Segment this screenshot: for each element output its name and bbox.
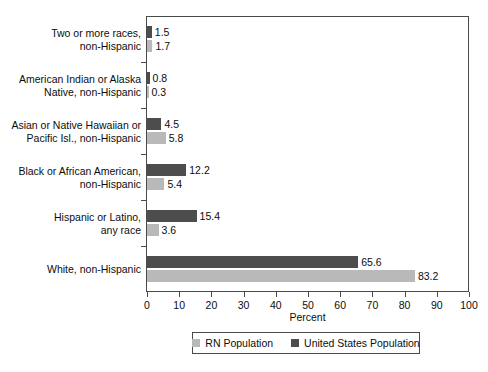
category-row: White, non-Hispanic65.683.2	[146, 246, 469, 292]
bar-group: 15.43.6	[147, 200, 469, 246]
bar-chart: Two or more races, non-Hispanic1.51.7Ame…	[0, 0, 488, 372]
y-axis-tick	[141, 200, 146, 201]
legend-label-rn-population: RN Population	[205, 338, 273, 349]
y-axis-tick	[141, 154, 146, 155]
bar-value-label: 4.5	[164, 119, 179, 130]
category-label: White, non-Hispanic	[0, 263, 146, 276]
bar-value-label: 12.2	[189, 165, 209, 176]
y-axis-tick	[141, 108, 146, 109]
bar-rn-population: 83.2	[147, 270, 415, 282]
bar-rn-population: 1.7	[147, 40, 152, 52]
legend-swatch-rn-icon	[192, 339, 200, 347]
bar-group: 0.80.3	[147, 62, 469, 108]
bar-united-states-population: 0.8	[147, 72, 150, 84]
category-label: Asian or Native Hawaiian or Pacific Isl.…	[0, 119, 146, 144]
bar-value-label: 1.5	[155, 27, 170, 38]
legend-label-united-states-population: United States Population	[304, 338, 420, 349]
x-axis-tick	[211, 292, 212, 297]
bar-united-states-population: 1.5	[147, 26, 152, 38]
legend-item-united-states-population: United States Population	[291, 338, 420, 349]
bar-rn-population: 3.6	[147, 224, 159, 236]
category-row: Black or African American, non-Hispanic1…	[146, 154, 469, 200]
category-label: Black or African American, non-Hispanic	[0, 165, 146, 190]
bar-rn-population: 5.4	[147, 178, 164, 190]
bar-value-label: 3.6	[162, 225, 177, 236]
x-axis-tick-label: 30	[238, 299, 250, 311]
x-axis-tick	[147, 292, 148, 297]
category-row: Hispanic or Latino, any race15.43.6	[146, 200, 469, 246]
category-row: American Indian or Alaska Native, non-Hi…	[146, 62, 469, 108]
legend: RN Population United States Population	[192, 332, 420, 354]
category-label: American Indian or Alaska Native, non-Hi…	[0, 73, 146, 98]
bar-value-label: 15.4	[200, 211, 220, 222]
x-axis-tick-label: 60	[334, 299, 346, 311]
legend-item-rn-population: RN Population	[192, 338, 273, 349]
x-axis-title: Percent	[146, 311, 469, 323]
bar-value-label: 1.7	[155, 41, 170, 52]
legend-swatch-us-icon	[291, 339, 299, 347]
bar-value-label: 0.8	[153, 73, 168, 84]
bar-rn-population: 0.3	[147, 86, 149, 98]
x-axis: 0102030405060708090100	[147, 292, 469, 293]
x-axis-tick	[372, 292, 373, 297]
bar-group: 12.25.4	[147, 154, 469, 200]
x-axis-tick	[405, 292, 406, 297]
category-row: Asian or Native Hawaiian or Pacific Isl.…	[146, 108, 469, 154]
x-axis-tick-label: 90	[431, 299, 443, 311]
x-axis-tick	[308, 292, 309, 297]
x-axis-tick	[340, 292, 341, 297]
bar-rn-population: 5.8	[147, 132, 166, 144]
x-axis-tick-label: 70	[367, 299, 379, 311]
bar-value-label: 0.3	[152, 87, 167, 98]
bar-value-label: 83.2	[418, 271, 438, 282]
bar-group: 4.55.8	[147, 108, 469, 154]
x-axis-tick-label: 20	[206, 299, 218, 311]
category-row: Two or more races, non-Hispanic1.51.7	[146, 16, 469, 62]
x-axis-tick-label: 10	[173, 299, 185, 311]
bar-group: 1.51.7	[147, 16, 469, 62]
bar-united-states-population: 4.5	[147, 118, 161, 130]
y-axis-tick	[141, 62, 146, 63]
bar-united-states-population: 15.4	[147, 210, 197, 222]
x-axis-tick-label: 80	[399, 299, 411, 311]
y-axis-tick	[141, 246, 146, 247]
category-label: Hispanic or Latino, any race	[0, 211, 146, 236]
x-axis-tick	[437, 292, 438, 297]
x-axis-tick-label: 100	[460, 299, 478, 311]
bar-value-label: 65.6	[361, 257, 381, 268]
x-axis-tick	[244, 292, 245, 297]
x-axis-tick	[276, 292, 277, 297]
x-axis-tick-label: 0	[144, 299, 150, 311]
x-axis-tick-label: 50	[302, 299, 314, 311]
bar-group: 65.683.2	[147, 246, 469, 292]
category-label: Two or more races, non-Hispanic	[0, 27, 146, 52]
bar-value-label: 5.4	[167, 179, 182, 190]
x-axis-tick	[179, 292, 180, 297]
bar-value-label: 5.8	[169, 133, 184, 144]
x-axis-tick-label: 40	[270, 299, 282, 311]
bar-united-states-population: 12.2	[147, 164, 186, 176]
bar-united-states-population: 65.6	[147, 256, 358, 268]
x-axis-tick	[469, 292, 470, 297]
